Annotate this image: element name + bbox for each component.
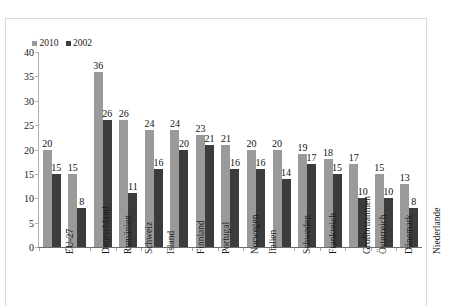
bar-2002[interactable]: 16 (154, 169, 163, 247)
x-axis-label-cell: Norwegen (218, 252, 244, 308)
x-axis-label: Finnland (196, 220, 206, 254)
x-axis-label-cell: Italien (243, 252, 269, 308)
bar-2002[interactable]: 20 (179, 150, 188, 248)
bar-value-label: 18 (323, 147, 333, 158)
x-axis-label-cell: Dänemark (371, 252, 397, 308)
x-axis-label: Norwegen (250, 214, 260, 254)
y-axis-tick-mark (35, 125, 38, 126)
bar-2002[interactable]: 8 (77, 208, 86, 247)
bar-2010[interactable]: 17 (349, 164, 358, 247)
bar-value-label: 20 (247, 138, 257, 149)
bar-group: 2014 (269, 52, 295, 247)
top-caption (0, 0, 451, 10)
bar-value-label: 10 (383, 186, 393, 197)
y-axis-tick-label: 0 (29, 242, 34, 253)
bar-value-label: 15 (51, 162, 61, 173)
x-axis-label: Schweiz (144, 222, 154, 254)
y-axis-tick-label: 5 (29, 217, 34, 228)
y-axis-tick-label: 20 (24, 144, 34, 155)
x-axis-label-cell: Portugal (192, 252, 218, 308)
x-axis-label: Großbritannien (362, 196, 372, 254)
bar-value-label: 8 (79, 196, 84, 207)
x-axis-label-cell: Frankreich (294, 252, 320, 308)
bar-group: 2116 (218, 52, 244, 247)
y-axis-tick-mark (35, 76, 38, 77)
bar-2002[interactable]: 14 (282, 179, 291, 247)
y-axis-tick-mark (35, 198, 38, 199)
y-axis-tick-mark (35, 223, 38, 224)
x-axis-label: Österreich (378, 214, 388, 254)
bar-value-label: 21 (204, 133, 214, 144)
x-axis-label: Rumänien (122, 215, 132, 254)
legend-item-2010: 2010 (32, 38, 59, 48)
bar-value-label: 16 (256, 157, 266, 168)
bar-2002[interactable]: 15 (52, 174, 61, 247)
y-axis-tick-label: 25 (24, 120, 34, 131)
bar-value-label: 16 (153, 157, 163, 168)
bar-value-label: 14 (281, 167, 291, 178)
x-axis-label-cell: Niederlande (396, 252, 422, 308)
x-axis-label: Deutschland (101, 207, 111, 255)
x-axis-label: Island (166, 231, 176, 254)
x-axis-label: Portugal (221, 222, 231, 254)
x-axis-label-cell: Schweden (269, 252, 295, 308)
square-swatch-icon (32, 41, 37, 46)
y-axis-tick-mark (35, 174, 38, 175)
bar-2002[interactable]: 16 (230, 169, 239, 247)
bar-value-label: 21 (221, 133, 231, 144)
y-axis-tick-label: 10 (24, 193, 34, 204)
x-axis-label: Schweden (301, 215, 311, 254)
y-axis-tick-mark (35, 101, 38, 102)
legend-label-2010: 2010 (40, 38, 59, 48)
x-axis-label-cell: Rumänien (90, 252, 116, 308)
x-axis-label-cell: Großbritannien (320, 252, 346, 308)
legend-item-2002: 2002 (66, 38, 93, 48)
square-swatch-icon (66, 41, 71, 46)
bar-value-label: 20 (272, 138, 282, 149)
bar-value-label: 20 (42, 138, 52, 149)
x-axis-label-cell: Island (141, 252, 167, 308)
bar-value-label: 16 (230, 157, 240, 168)
bar-value-label: 8 (411, 196, 416, 207)
bar-value-label: 15 (332, 162, 342, 173)
x-axis-label: Dänemark (403, 214, 413, 254)
bar-value-label: 26 (119, 108, 129, 119)
legend-label-2002: 2002 (73, 38, 92, 48)
bar-value-label: 24 (170, 118, 180, 129)
bar-value-label: 15 (68, 162, 78, 173)
bar-group: 2015 (39, 52, 65, 247)
x-axis-label-cell: Deutschland (65, 252, 91, 308)
bar-value-label: 17 (307, 152, 317, 163)
y-axis-tick-label: 15 (24, 168, 34, 179)
y-axis-tick-mark (35, 52, 38, 53)
bar-value-label: 11 (128, 181, 138, 192)
bar-value-label: 26 (102, 108, 112, 119)
x-axis-label-cell: Österreich (345, 252, 371, 308)
bar-2002[interactable]: 21 (205, 145, 214, 247)
bar-value-label: 17 (349, 152, 359, 163)
chart-legend: 2010 2002 (32, 38, 92, 48)
bar-value-label: 20 (179, 138, 189, 149)
y-axis-tick-label: 30 (24, 95, 34, 106)
x-axis-label-cell: EU-27 (39, 252, 65, 308)
x-axis-label: Italien (268, 230, 278, 254)
y-axis-tick-label: 40 (24, 47, 34, 58)
bar-value-label: 15 (374, 162, 384, 173)
y-axis-tick-label: 35 (24, 71, 34, 82)
bar-group: 2420 (167, 52, 193, 247)
bar-group: 2416 (141, 52, 167, 247)
x-axis-labels: EU-27DeutschlandRumänienSchweizIslandFin… (39, 252, 422, 308)
x-axis-label-cell: Finnland (167, 252, 193, 308)
bar-group: 158 (65, 52, 91, 247)
x-axis-label-cell: Schweiz (116, 252, 142, 308)
bar-value-label: 36 (93, 60, 103, 71)
bar-value-label: 24 (144, 118, 154, 129)
y-axis-tick-mark (35, 150, 38, 151)
x-axis-label: Niederlande (432, 208, 442, 254)
x-axis-label: EU-27 (64, 229, 74, 254)
bar-group: 2321 (192, 52, 218, 247)
x-axis-label: Frankreich (328, 213, 338, 254)
bar-value-label: 13 (400, 172, 410, 183)
